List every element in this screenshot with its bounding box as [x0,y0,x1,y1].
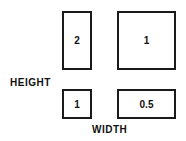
ratio-value: 1 [74,99,80,110]
ratio-value: 1 [144,35,150,46]
box-large-square-ratio-1: 1 [117,11,176,70]
width-axis-label: WIDTH [92,124,127,135]
ratio-value: 2 [74,35,80,46]
box-tall-ratio-2: 2 [62,11,92,70]
height-axis-label: HEIGHT [10,77,51,88]
ratio-value: 0.5 [140,99,154,110]
box-wide-ratio-0-5: 0.5 [117,89,176,119]
box-small-square-ratio-1: 1 [62,89,92,119]
